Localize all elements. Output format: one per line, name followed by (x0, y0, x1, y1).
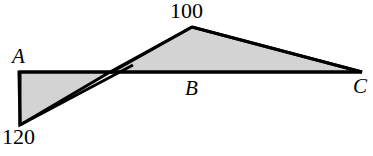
beam-diagram-figure: A B C 100 120 (0, 0, 373, 156)
point-label-a: A (12, 46, 25, 67)
value-label-lower-peak: 120 (2, 126, 35, 148)
point-label-c: C (353, 76, 367, 97)
value-label-upper-peak: 100 (170, 0, 203, 22)
point-label-b: B (185, 78, 198, 99)
upper-triangle-region (110, 27, 362, 72)
